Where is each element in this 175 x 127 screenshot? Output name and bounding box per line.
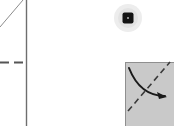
gray-panel[interactable]: [126, 63, 175, 127]
diagram-vector-layer: [0, 0, 174, 126]
diagram-canvas: diagram-crop: [0, 0, 174, 126]
guide-diagonal-line: [0, 0, 23, 27]
cursor-marker-inner-dot-icon: [127, 17, 129, 19]
